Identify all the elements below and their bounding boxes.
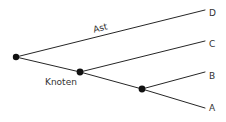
node-label-knoten: Knoten [45,77,77,87]
endpoint-label-B: B [209,71,215,81]
tree-diagram-canvas: D C B A Ast Knoten [0,0,226,122]
edge-root-to-knoten [16,57,80,72]
endpoint-label-D: D [209,8,216,18]
root-node [13,54,19,60]
endpoint-label-C: C [209,39,215,49]
endpoint-label-A: A [209,103,216,113]
tree-diagram: D C B A Ast Knoten [0,0,226,122]
edge-knoten-to-fork [80,72,142,89]
branch-label-ast: Ast [92,21,109,34]
edge-fork-to-A [142,89,205,108]
edge-fork-to-B [142,72,205,89]
edge-knoten-to-C [80,41,205,72]
fork-node [139,86,146,93]
edge-root-to-D [16,10,205,57]
knoten-node [77,69,84,76]
